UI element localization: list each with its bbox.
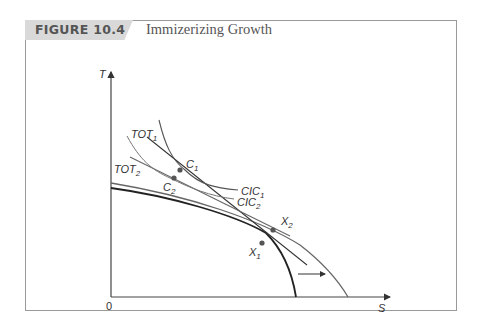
tot1-label: TOT1 xyxy=(131,128,157,143)
x-axis-label: S xyxy=(378,302,386,314)
c1-label: C1 xyxy=(186,158,198,173)
point-c1 xyxy=(177,167,182,172)
point-x1 xyxy=(259,240,264,245)
ppf-after-growth xyxy=(111,183,348,297)
y-axis-label: T xyxy=(99,68,107,80)
tot1-line xyxy=(147,137,307,265)
point-c2 xyxy=(171,175,176,180)
x2-label: X2 xyxy=(280,215,293,230)
immiserizing-growth-diagram: T S 0 TOT1 TOT2 C1 C2 CIC1 CIC2 X1 X2 xyxy=(0,0,481,330)
point-x2 xyxy=(270,227,275,232)
tot2-label: TOT2 xyxy=(114,163,141,178)
cic2-label: CIC2 xyxy=(237,196,261,211)
cic1-curve xyxy=(159,120,238,190)
x1-label: X1 xyxy=(248,246,261,261)
origin-label: 0 xyxy=(106,300,112,312)
